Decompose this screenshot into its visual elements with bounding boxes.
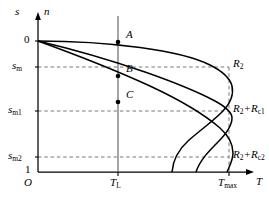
y-axis-arrow: [35, 12, 41, 20]
y-axis-label-slip: s: [15, 6, 19, 17]
curve-label-r2-rc1: R2+Rc1: [233, 103, 265, 114]
curve-label-r2-base: R: [233, 57, 240, 69]
y-tick-label-sm1-sub: m1: [12, 108, 22, 117]
curve-label-r2-rc2-extra: +R: [243, 148, 257, 160]
x-tick-label-tl: TL: [110, 177, 121, 188]
curve-r2-rc2: [38, 41, 233, 172]
curve-label-r2-rc1-extra-sub: c1: [258, 107, 265, 116]
y-tick-label-sm1: sm1: [8, 104, 22, 115]
operating-point-label-a: A: [126, 29, 133, 40]
y-tick-label-sm2-sub: m2: [12, 154, 22, 163]
slip-torque-figure: s n T O 0 sm sm1 sm2 1 TL Tmax A B C R2 …: [0, 0, 269, 198]
y-tick-label-sm-sub: m: [16, 64, 22, 73]
curve-label-r2-rc2: R2+Rc2: [233, 149, 265, 160]
origin-label: O: [24, 177, 32, 188]
x-axis-arrow: [246, 169, 254, 175]
point-marker-c: [116, 100, 121, 105]
curve-r2: [38, 41, 233, 172]
curve-label-r2-rc1-extra: +R: [243, 102, 257, 114]
point-marker-a: [116, 40, 121, 45]
axis-lines: [38, 16, 249, 172]
y-tick-label-sm2: sm2: [8, 150, 22, 161]
dashed-reference-lines: [38, 67, 229, 172]
y-axis-label-speed: n: [44, 6, 50, 17]
curve-label-r2-rc2-sub: 2: [240, 153, 244, 162]
point-marker-b: [116, 74, 121, 79]
x-axis-label-torque: T: [256, 176, 262, 187]
curve-label-r2-rc2-base: R: [233, 148, 240, 160]
operating-point-label-c: C: [126, 89, 133, 100]
x-tick-label-tmax: Tmax: [218, 177, 237, 188]
curve-label-r2-rc2-extra-sub: c2: [258, 153, 265, 162]
x-tick-label-tmax-sub: max: [224, 181, 237, 190]
curve-label-r2-sub: 2: [240, 62, 244, 71]
curve-label-r2: R2: [233, 58, 243, 69]
y-tick-label-sm: sm: [12, 60, 22, 71]
plot-canvas: [0, 0, 269, 198]
curve-label-r2-rc1-sub: 2: [240, 107, 244, 116]
x-tick-label-tl-sub: L: [116, 181, 121, 190]
curve-r2-rc1: [38, 41, 232, 172]
operating-point-label-b: B: [126, 63, 133, 74]
curve-label-r2-rc1-base: R: [233, 102, 240, 114]
y-tick-label-1: 1: [25, 164, 31, 175]
y-tick-label-0: 0: [24, 34, 30, 45]
